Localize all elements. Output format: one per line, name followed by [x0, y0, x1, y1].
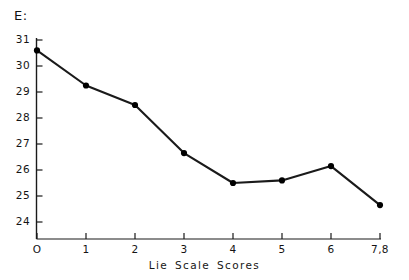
x-axis-ticks — [37, 233, 380, 239]
y-axis-tick-label: 31 — [8, 33, 30, 45]
x-axis-tick-label: 5 — [267, 243, 297, 255]
data-point — [83, 82, 89, 88]
line-chart: E: 3130292827262524 O1234567,8 Lie Scale… — [0, 0, 409, 280]
x-axis-title: Lie Scale Scores — [0, 259, 409, 271]
y-axis-tick-label: 24 — [8, 215, 30, 227]
data-point — [230, 180, 236, 186]
y-axis-tick-label: 28 — [8, 111, 30, 123]
y-axis-tick-label: 25 — [8, 189, 30, 201]
data-point — [328, 163, 334, 169]
data-point — [34, 47, 40, 53]
data-point — [181, 150, 187, 156]
data-point — [132, 102, 138, 108]
y-axis-tick-label: 27 — [8, 137, 30, 149]
y-axis-ticks — [37, 40, 43, 222]
x-axis-tick-label: 7,8 — [365, 243, 395, 255]
x-axis-tick-label: O — [22, 243, 52, 255]
data-point — [377, 202, 383, 208]
y-axis-tick-label: 26 — [8, 163, 30, 175]
x-axis-tick-label: 3 — [169, 243, 199, 255]
data-point-markers — [34, 47, 383, 208]
plot-area — [0, 0, 409, 280]
data-series-line — [37, 50, 380, 205]
y-axis-tick-label: 30 — [8, 59, 30, 71]
data-point — [279, 177, 285, 183]
x-axis-tick-label: 6 — [316, 243, 346, 255]
x-axis-tick-label: 1 — [71, 243, 101, 255]
x-axis-tick-label: 2 — [120, 243, 150, 255]
x-axis-tick-label: 4 — [218, 243, 248, 255]
y-axis-tick-label: 29 — [8, 85, 30, 97]
